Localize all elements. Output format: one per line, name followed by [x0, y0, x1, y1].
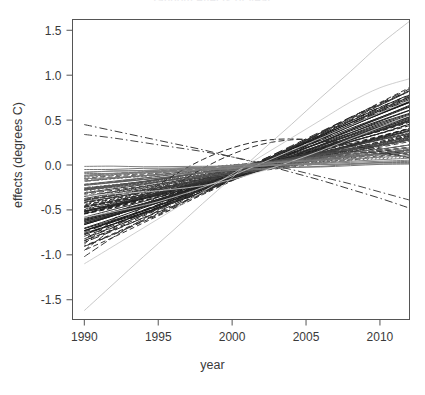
axis-tick-label: 0.0 — [45, 159, 62, 173]
axis-tick-label: -1.5 — [41, 293, 62, 307]
axis-tick-label: -0.5 — [41, 203, 62, 217]
axis-tick-label: 2000 — [219, 330, 246, 344]
axis-tick-label: 2010 — [367, 330, 394, 344]
axis-tick-label: 1.0 — [45, 69, 62, 83]
y-axis-label: effects (degrees C) — [11, 80, 25, 230]
plot-area: 19901995200020052010-1.5-1.0-0.50.00.51.… — [0, 0, 425, 395]
axis-tick-label: 1.5 — [45, 24, 62, 38]
axis-tick-label: 0.5 — [45, 114, 62, 128]
random-effects-chart: random effects of year 19901995200020052… — [0, 0, 425, 395]
x-axis-label: year — [0, 358, 425, 372]
axis-tick-label: 2005 — [293, 330, 320, 344]
axis-tick-label: -1.0 — [41, 248, 62, 262]
axis-tick-label: 1995 — [145, 330, 172, 344]
series-layer — [84, 21, 409, 310]
axis-tick-label: 1990 — [71, 330, 98, 344]
